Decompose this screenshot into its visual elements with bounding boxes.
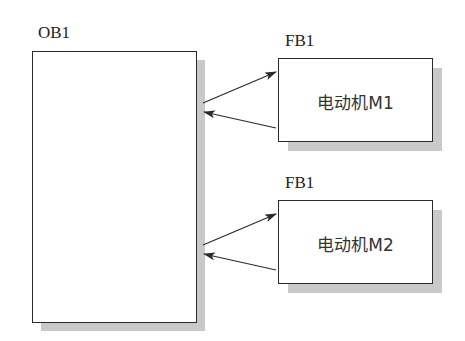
call-arrow-m1	[203, 72, 276, 103]
return-arrow-m2	[204, 254, 276, 270]
return-arrow-m1	[204, 112, 276, 128]
connection-arrows	[0, 0, 465, 341]
call-arrow-m2	[203, 214, 276, 245]
